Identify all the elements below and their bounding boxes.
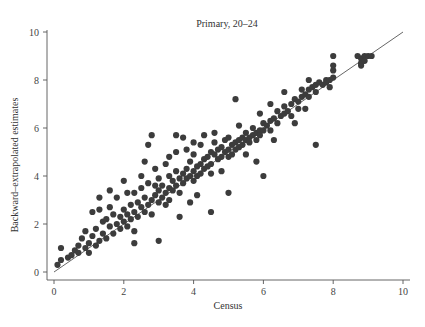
data-point xyxy=(211,139,217,145)
data-point xyxy=(145,180,151,186)
data-point xyxy=(149,211,155,217)
data-point xyxy=(187,159,193,165)
data-point xyxy=(246,139,252,145)
y-tick-group: 0246810 xyxy=(29,27,47,278)
data-point xyxy=(177,214,183,220)
data-point xyxy=(128,216,134,222)
data-point xyxy=(313,89,319,95)
data-point xyxy=(142,209,148,215)
x-axis-title: Census xyxy=(214,300,243,311)
data-point xyxy=(173,183,179,189)
scatter-chart: Primary, 20–24 0246810 0246810 Census Ba… xyxy=(0,0,425,327)
data-point xyxy=(194,192,200,198)
data-point xyxy=(225,135,231,141)
data-point xyxy=(131,228,137,234)
data-point xyxy=(86,250,92,256)
data-point xyxy=(138,173,144,179)
x-tick-label: 8 xyxy=(331,286,336,297)
data-point xyxy=(236,123,242,129)
data-point xyxy=(82,228,88,234)
data-point xyxy=(58,245,64,251)
data-point xyxy=(208,209,214,215)
data-point xyxy=(128,202,134,208)
data-point xyxy=(135,214,141,220)
data-point xyxy=(177,190,183,196)
data-point xyxy=(103,216,109,222)
data-point xyxy=(267,127,273,133)
data-point xyxy=(110,231,116,237)
data-point xyxy=(201,132,207,138)
y-tick-label: 6 xyxy=(34,123,39,134)
data-point xyxy=(117,226,123,232)
data-point xyxy=(107,187,113,193)
data-point xyxy=(121,178,127,184)
data-point xyxy=(306,77,312,83)
data-point xyxy=(166,154,172,160)
data-point xyxy=(138,185,144,191)
data-point xyxy=(75,243,81,249)
data-point xyxy=(131,190,137,196)
data-point xyxy=(295,106,301,112)
data-point xyxy=(208,161,214,167)
data-point xyxy=(243,151,249,157)
data-point xyxy=(163,202,169,208)
data-point xyxy=(184,147,190,153)
data-point xyxy=(292,120,298,126)
data-point xyxy=(218,168,224,174)
scatter-points xyxy=(54,53,374,268)
data-point xyxy=(180,135,186,141)
data-point xyxy=(313,142,319,148)
x-tick-label: 10 xyxy=(398,286,408,297)
data-point xyxy=(281,89,287,95)
data-point xyxy=(267,101,273,107)
data-point xyxy=(96,207,102,213)
x-tick-label: 6 xyxy=(261,286,266,297)
data-point xyxy=(145,142,151,148)
data-point xyxy=(163,161,169,167)
data-point xyxy=(79,235,85,241)
x-tick-label: 0 xyxy=(52,286,57,297)
data-point xyxy=(173,149,179,155)
data-point xyxy=(89,209,95,215)
data-point xyxy=(96,238,102,244)
data-point xyxy=(142,195,148,201)
y-tick-label: 10 xyxy=(29,27,39,38)
data-point xyxy=(159,183,165,189)
data-point xyxy=(306,94,312,100)
data-point xyxy=(271,137,277,143)
data-point xyxy=(103,235,109,241)
data-point xyxy=(173,132,179,138)
data-point xyxy=(107,204,113,210)
data-point xyxy=(225,190,231,196)
data-point xyxy=(75,250,81,256)
y-tick-label: 4 xyxy=(34,171,39,182)
data-point xyxy=(96,195,102,201)
data-point xyxy=(257,111,263,117)
data-point xyxy=(131,240,137,246)
data-point xyxy=(211,130,217,136)
data-point xyxy=(58,257,64,263)
data-point xyxy=(191,151,197,157)
data-point xyxy=(86,240,92,246)
data-point xyxy=(152,183,158,189)
data-point xyxy=(173,168,179,174)
chart-title: Primary, 20–24 xyxy=(196,18,258,29)
data-point xyxy=(330,53,336,59)
data-point xyxy=(232,96,238,102)
y-tick-label: 2 xyxy=(34,219,39,230)
data-point xyxy=(110,211,116,217)
data-point xyxy=(362,58,368,64)
data-point xyxy=(330,63,336,69)
data-point xyxy=(330,75,336,81)
data-point xyxy=(93,226,99,232)
data-point xyxy=(191,139,197,145)
data-point xyxy=(114,195,120,201)
data-point xyxy=(124,190,130,196)
data-point xyxy=(208,171,214,177)
data-point xyxy=(184,166,190,172)
data-point xyxy=(156,175,162,181)
data-point xyxy=(274,120,280,126)
data-point xyxy=(253,159,259,165)
data-point xyxy=(142,159,148,165)
data-point xyxy=(152,166,158,172)
